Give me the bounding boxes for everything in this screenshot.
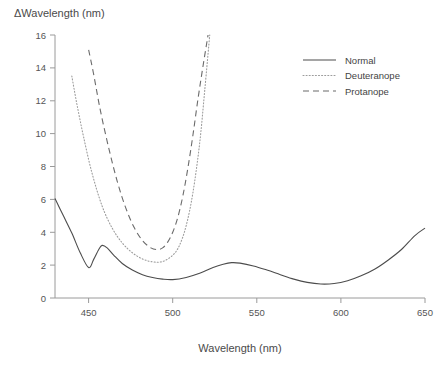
y-tick-label: 8 bbox=[41, 161, 46, 172]
legend-label: Deuteranope bbox=[345, 70, 400, 81]
y-tick-label: 10 bbox=[35, 128, 46, 139]
legend-item-protanope: Protanope bbox=[303, 86, 389, 97]
wavelength-discrimination-chart: ΔWavelength (nm) 0 2 4 6 8 10 12 14 16 bbox=[0, 0, 443, 371]
legend-item-normal: Normal bbox=[303, 55, 376, 66]
y-axis-title: ΔWavelength (nm) bbox=[14, 7, 105, 19]
y-tick-label: 2 bbox=[41, 260, 46, 271]
legend-label: Protanope bbox=[345, 86, 389, 97]
legend-label: Normal bbox=[345, 55, 376, 66]
y-axis-ticks: 0 2 4 6 8 10 12 14 16 bbox=[35, 30, 55, 304]
y-tick-label: 4 bbox=[41, 227, 46, 238]
y-tick-label: 14 bbox=[35, 62, 46, 73]
y-tick-label: 6 bbox=[41, 194, 46, 205]
series-line-normal bbox=[55, 199, 425, 285]
x-tick-label: 450 bbox=[81, 307, 97, 318]
x-tick-label: 550 bbox=[249, 307, 265, 318]
chart-figure: ΔWavelength (nm) 0 2 4 6 8 10 12 14 16 bbox=[0, 0, 443, 371]
chart-legend: Normal Deuteranope Protanope bbox=[303, 55, 400, 97]
x-axis-ticks: 450 500 550 600 650 bbox=[81, 298, 433, 318]
y-tick-label: 12 bbox=[35, 95, 46, 106]
x-axis-title: Wavelength (nm) bbox=[198, 342, 281, 354]
x-tick-label: 650 bbox=[417, 307, 433, 318]
x-tick-label: 500 bbox=[165, 307, 181, 318]
series-line-deuteranope bbox=[72, 35, 210, 262]
legend-item-deuteranope: Deuteranope bbox=[303, 70, 400, 81]
y-tick-label: 0 bbox=[41, 293, 46, 304]
y-tick-label: 16 bbox=[35, 30, 46, 41]
x-tick-label: 600 bbox=[333, 307, 349, 318]
